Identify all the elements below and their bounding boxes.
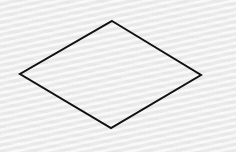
rhombus-shape: [20, 21, 201, 128]
diagram-canvas: [0, 0, 236, 152]
diagram-svg: [0, 0, 236, 152]
